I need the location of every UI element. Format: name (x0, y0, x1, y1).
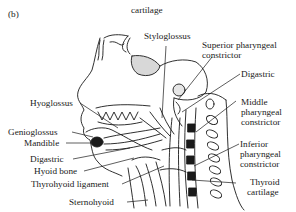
label-sternohyoid: Sternohyoid (69, 197, 114, 207)
label-genioglossus: Genioglossus (8, 127, 58, 137)
label-inferior-pharyngeal-line3: constrictor (240, 159, 279, 169)
label-mandible: Mandible (24, 138, 59, 148)
label-styloglossus: Styloglossus (144, 31, 190, 41)
label-hyoid-bone: Hyoid bone (34, 166, 77, 176)
label-digastric-left: Digastric (30, 154, 64, 164)
label-middle-pharyngeal-line2: pharyngeal (241, 107, 282, 117)
label-thyroid-line2: cartilage (247, 187, 279, 197)
top-caption: cartilage (131, 5, 163, 15)
label-thyroid-line1: Thyroid (250, 177, 280, 187)
label-inferior-pharyngeal-line2: pharyngeal (240, 149, 281, 159)
panel-label: (b) (8, 9, 19, 19)
label-superior-pharyngeal-line2: constrictor (202, 50, 241, 60)
label-digastric-right: Digastric (241, 69, 275, 79)
label-superior-pharyngeal-line1: Superior pharyngeal (202, 40, 277, 50)
label-hyoglossus: Hyoglossus (30, 98, 73, 108)
label-thyrohyoid-ligament: Thyrohyoid ligament (31, 179, 109, 189)
label-middle-pharyngeal-line3: constrictor (241, 117, 280, 127)
label-middle-pharyngeal-line1: Middle (241, 97, 268, 107)
label-inferior-pharyngeal-line1: Inferior (240, 139, 268, 149)
